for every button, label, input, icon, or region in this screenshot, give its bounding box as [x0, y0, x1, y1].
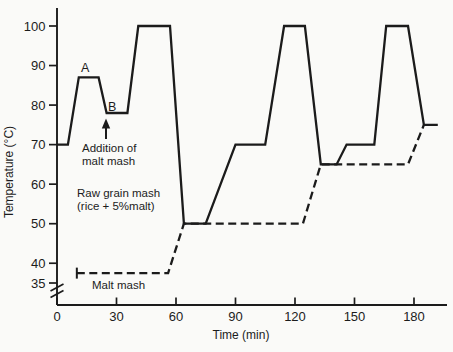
x-tick-label: 60 [169, 309, 183, 324]
y-tick-label: 35 [31, 276, 45, 291]
malt-mash-series-label: Malt mash [92, 279, 145, 291]
x-tick-label: 30 [109, 309, 123, 324]
x-axis-title: Time (min) [213, 328, 270, 342]
x-tick-label: 120 [284, 309, 306, 324]
raw-grain-mash-series-label-line1: Raw grain mash [77, 187, 160, 199]
y-tick-label: 100 [24, 19, 46, 34]
x-tick-label: 90 [228, 309, 242, 324]
y-tick-label: 70 [31, 137, 45, 152]
x-tick-label: 150 [344, 309, 366, 324]
y-axis-title: Temperature (°C) [2, 126, 16, 218]
addition-of-malt-mash-label-line2: malt mash [82, 155, 135, 167]
chart-canvas: 030609012015018010090807060504035 Temper… [0, 0, 453, 352]
y-tick-label: 60 [31, 177, 45, 192]
y-tick-label: 90 [31, 58, 45, 73]
y-tick-label: 50 [31, 216, 45, 231]
x-tick-label: 180 [403, 309, 425, 324]
addition-up-arrow-icon [102, 119, 110, 129]
addition-of-malt-mash-label-line1: Addition of [82, 142, 137, 154]
point-b-label: B [108, 100, 116, 114]
raw-grain-mash-series-label-line2: (rice + 5%malt) [77, 200, 155, 212]
y-tick-label: 40 [31, 256, 45, 271]
point-a-label: A [81, 61, 90, 75]
mash-temperature-profile-figure: 030609012015018010090807060504035 Temper… [0, 0, 453, 352]
y-tick-label: 80 [31, 98, 45, 113]
x-tick-label: 0 [53, 309, 60, 324]
